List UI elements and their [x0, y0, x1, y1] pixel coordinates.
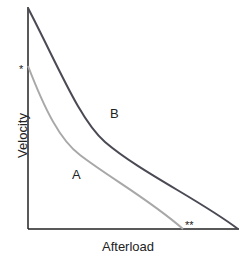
x-axis-label: Afterload: [102, 239, 154, 254]
curve-b: [28, 8, 238, 229]
velocity-afterload-plot: [0, 0, 245, 260]
curve-a-label: A: [72, 167, 81, 182]
y-intercept-marker: *: [19, 63, 23, 75]
curve-b-label: B: [110, 106, 119, 121]
x-intercept-marker: **: [185, 219, 194, 231]
y-axis-label: Velocity: [15, 106, 30, 166]
curve-a: [28, 66, 183, 229]
